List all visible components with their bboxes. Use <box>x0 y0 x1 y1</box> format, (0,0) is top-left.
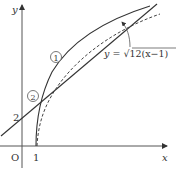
marker-2-label: 2 <box>30 93 35 102</box>
line-2 <box>1 4 157 136</box>
y-axis-label: y <box>11 4 18 15</box>
curve-1 <box>36 6 150 146</box>
x-tick-1: 1 <box>33 152 39 163</box>
equation-label: y = √12(x−1) <box>103 48 168 59</box>
label-pointer <box>122 22 130 47</box>
marker-1-label: 1 <box>53 54 58 63</box>
x-axis-label: x <box>162 152 168 163</box>
curve-dashed <box>37 14 160 146</box>
origin-label: O <box>11 152 19 163</box>
y-tick-2: 2 <box>13 112 19 123</box>
graph-diagram: 1 2 y x O 1 2 y = √12(x−1) <box>0 0 180 171</box>
